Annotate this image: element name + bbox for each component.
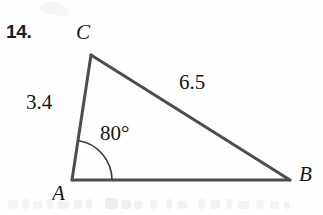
vertex-label-c: C [76,22,90,43]
exercise-figure-page: 14. C A B 3.4 6.5 80° [0,0,323,215]
vertex-label-a: A [52,183,65,204]
angle-measure-label-a: 80° [100,123,129,144]
side-ac-line [72,55,91,180]
vertex-label-b: B [299,164,312,185]
side-length-label-cb: 6.5 [179,72,205,93]
side-length-label-ac: 3.4 [26,92,52,113]
angle-a-arc [78,140,112,180]
